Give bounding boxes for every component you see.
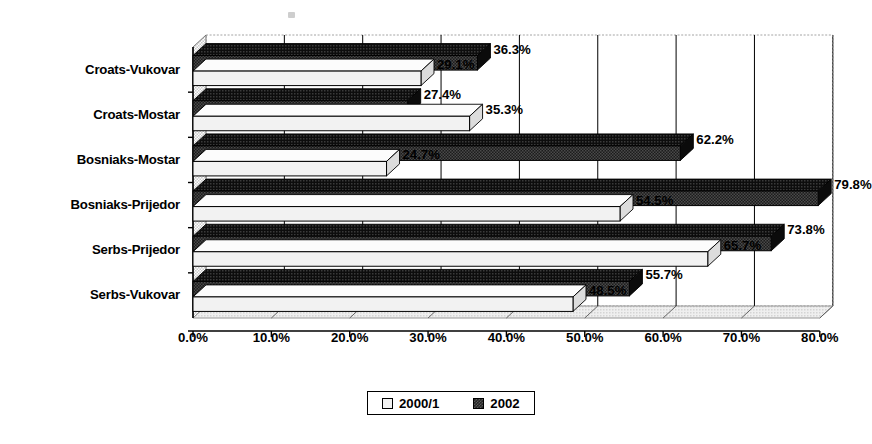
bar-value-label: 27.4%	[424, 88, 461, 101]
bar-value-label: 48.5%	[589, 284, 626, 297]
legend-label: 2000/1	[399, 396, 439, 411]
legend-item-2002[interactable]: 2002	[473, 396, 519, 411]
bar-value-label: 36.3%	[493, 43, 530, 56]
bar-value-label: 24.7%	[403, 148, 440, 161]
legend-label: 2002	[490, 396, 519, 411]
bar-value-label: 55.7%	[645, 268, 682, 281]
bar-value-label: 54.5%	[636, 194, 673, 207]
light-swatch	[382, 398, 393, 409]
chart-legend: 2000/12002	[367, 391, 535, 415]
bar-value-label: 35.3%	[486, 103, 523, 116]
dark-swatch	[473, 398, 484, 409]
bar-value-label: 79.8%	[834, 178, 871, 191]
bar-value-label: 29.1%	[437, 58, 474, 71]
bar-value-label: 62.2%	[696, 133, 733, 146]
bar-value-label: 73.8%	[787, 223, 824, 236]
legend-item-2000-1[interactable]: 2000/1	[382, 396, 439, 411]
bar-value-label: 65.7%	[724, 239, 761, 252]
